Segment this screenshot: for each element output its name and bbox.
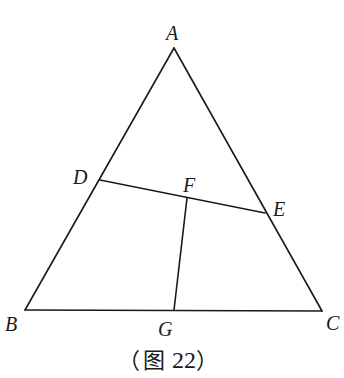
caption-open-paren: （	[118, 348, 140, 373]
label-point-b: B	[5, 313, 17, 335]
label-point-f: F	[182, 174, 196, 196]
label-point-d: D	[72, 166, 88, 188]
triangle-diagram: A B C D E F G （ 图 22 ）	[0, 0, 344, 378]
label-point-a: A	[164, 22, 179, 44]
label-point-e: E	[272, 198, 285, 220]
segment-fg	[174, 198, 187, 310]
figure-caption: （ 图 22 ）	[118, 347, 218, 373]
segment-ac	[174, 48, 322, 311]
segment-ab	[25, 48, 174, 310]
caption-figure-char: 图	[143, 348, 165, 373]
label-point-c: C	[326, 312, 340, 334]
caption-close-paren: ）	[196, 348, 218, 373]
caption-figure-number: 22	[172, 347, 196, 373]
label-point-g: G	[158, 318, 173, 340]
